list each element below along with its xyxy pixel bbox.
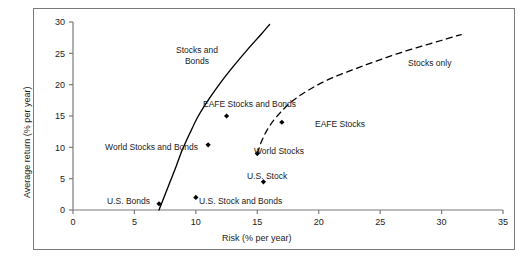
x-tick-label: 5 [132, 217, 137, 227]
frontier-curve-stocks-only [257, 35, 461, 154]
point-label-eafe-stocks: EAFE Stocks [315, 119, 365, 129]
data-point-markers [156, 113, 284, 206]
data-point-world-stocks-and-bonds [206, 142, 211, 147]
stocks-and-bonds-curve-label-line2: Bonds [157, 56, 237, 66]
y-tick-label: 0 [60, 205, 65, 215]
x-tick-label: 15 [252, 217, 262, 227]
x-axis-ticks: 05101520253035 [70, 210, 508, 227]
data-point-eafe-stocks [279, 120, 284, 125]
y-tick-label: 30 [55, 17, 65, 27]
axes-group [73, 22, 503, 210]
y-tick-label: 25 [55, 49, 65, 59]
caption-strip [33, 258, 515, 272]
x-tick-label: 0 [70, 217, 75, 227]
stocks-only-curve-label: Stocks only [408, 58, 451, 68]
data-point-unlabeled-point [193, 195, 198, 200]
point-label-world-stocks-and-bonds: World Stocks and Bonds [28, 142, 198, 152]
y-tick-label: 20 [55, 80, 65, 90]
y-axis-ticks: 051015202530 [55, 17, 73, 215]
stocks-and-bonds-curve-label-line1: Stocks and [157, 45, 237, 55]
point-label-eafe-stocks-and-bonds: EAFE Stocks and Bonds [203, 99, 296, 109]
x-tick-label: 10 [191, 217, 201, 227]
x-tick-label: 20 [314, 217, 324, 227]
chart-page: 051015202530 05101520253035 Risk (% per … [0, 0, 531, 272]
x-axis-title: Risk (% per year) [222, 233, 292, 243]
x-tick-label: 30 [437, 217, 447, 227]
point-label-us-stock: U.S. Stock [247, 171, 287, 181]
data-point-eafe-stocks-and-bonds [224, 113, 229, 118]
point-label-us-stock-and-bonds: U.S. Stock and Bonds [199, 196, 282, 206]
y-tick-label: 5 [60, 174, 65, 184]
point-label-us-bonds: U.S. Bonds [40, 196, 150, 206]
x-tick-label: 25 [375, 217, 385, 227]
plot-area: 051015202530 05101520253035 [0, 0, 531, 272]
y-tick-label: 15 [55, 111, 65, 121]
point-label-world-stocks: World Stocks [254, 146, 304, 156]
x-tick-label: 35 [498, 217, 508, 227]
